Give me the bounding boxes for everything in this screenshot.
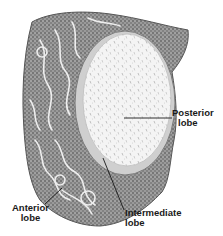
intermediate-label-line2: lobe [125,218,182,228]
anterior-lobe-label: Anterior lobe [12,203,49,223]
intermediate-lobe-label: Intermediate lobe [125,208,182,228]
anterior-label-line2: lobe [12,213,49,223]
posterior-lobe-label: Posterior lobe [172,108,214,128]
posterior-label-line2: lobe [172,118,214,128]
posterior-lobe-region [83,34,171,166]
pituitary-diagram: Posterior lobe Anterior lobe Intermediat… [0,0,223,236]
